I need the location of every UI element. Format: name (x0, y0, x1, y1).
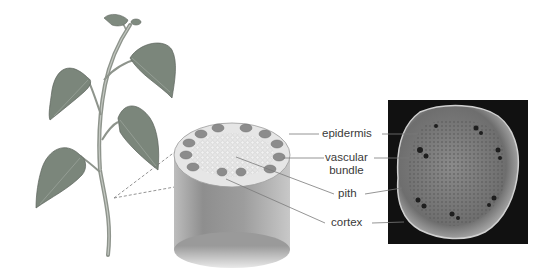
label-cortex: cortex (331, 216, 362, 229)
plant-illustration (36, 14, 175, 255)
label-vascular-bundle: vascular bundle (325, 151, 368, 177)
stem-diagram: epidermis vascular bundle pith cortex (0, 0, 554, 274)
stem-section-3d (170, 123, 294, 274)
label-pith: pith (338, 187, 357, 200)
label-vascular-line1: vascular (325, 151, 368, 164)
micrograph-panel (388, 100, 528, 244)
label-epidermis: epidermis (322, 127, 372, 140)
label-vascular-line2: bundle (325, 164, 368, 177)
diagram-artwork (0, 0, 554, 274)
